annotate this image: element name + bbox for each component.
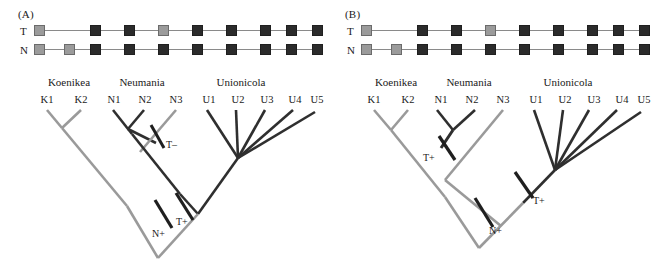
tick-mark-n-plus — [475, 198, 493, 227]
panel-b-mark-t-plus-neumania: T+ — [423, 152, 435, 163]
panel-b-mark-n-plus: N+ — [489, 225, 502, 236]
panel-b-mark-t-plus-unionicola: T+ — [533, 195, 545, 206]
branch-u5 — [555, 112, 641, 170]
backbone-neumania-join — [445, 180, 501, 226]
tick-mark-t-plus-unionicola — [515, 172, 533, 198]
branch-k2 — [62, 110, 81, 128]
panel-a-mark-t-plus: T+ — [176, 216, 188, 227]
branch-u1 — [534, 110, 555, 170]
branch-u2 — [236, 110, 238, 158]
branch-koenikea-stem — [62, 128, 127, 206]
branch-k2 — [391, 110, 408, 130]
panel-a: (A) T N — [0, 0, 327, 268]
branch-u1 — [207, 110, 238, 158]
branch-k1 — [374, 110, 391, 130]
panel-b: (B) T N — [327, 0, 654, 268]
panel-a-mark-n-plus: N+ — [152, 228, 165, 239]
branch-n1 — [437, 110, 453, 130]
branch-n2 — [128, 110, 144, 129]
figure-root: (A) T N — [0, 0, 654, 268]
panel-a-mark-t-minus: T– — [166, 139, 177, 150]
branch-k1 — [47, 110, 62, 128]
branch-koenikea-stem — [391, 130, 445, 197]
branch-n2 — [453, 110, 475, 130]
branch-u4 — [238, 110, 293, 158]
branch-u4 — [555, 110, 617, 170]
branch-n3 — [445, 110, 503, 180]
tick-mark-n-plus — [155, 200, 172, 228]
branch-unionicola-stem — [198, 158, 238, 214]
